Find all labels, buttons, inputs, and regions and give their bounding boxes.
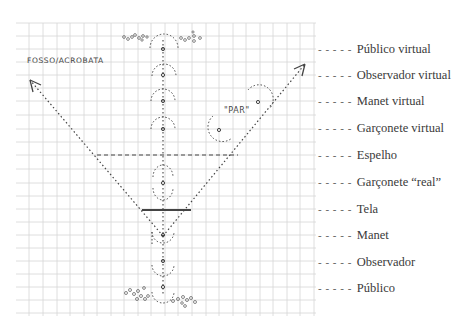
- legend-leader: - - - - -: [318, 176, 352, 188]
- legend-item-publico-virtual: - - - - -Público virtual: [318, 41, 431, 57]
- crowd-top: [123, 31, 202, 42]
- legend-label: Observador: [357, 255, 415, 270]
- legend-item-observador: - - - - -Observador: [318, 254, 415, 270]
- legend-leader: - - - - -: [318, 95, 352, 107]
- legend-leader: - - - - -: [318, 69, 352, 81]
- legend-item-garconete-virtual: - - - - -Garçonete virtual: [318, 120, 444, 136]
- legend-leader: - - - - -: [318, 282, 352, 294]
- legend-item-publico: - - - - -Público: [318, 280, 395, 296]
- legend-item-manet-virtual: - - - - -Manet virtual: [318, 93, 425, 109]
- legend-label: Observador virtual: [357, 68, 451, 83]
- legend-item-garconete-real: - - - - -Garçonete “real”: [318, 174, 441, 190]
- legend-leader: - - - - -: [318, 43, 352, 55]
- legend-item-espelho: - - - - -Espelho: [318, 147, 397, 163]
- sight-line-left: [30, 80, 163, 236]
- legend-leader: - - - - -: [318, 203, 352, 215]
- legend-label: Manet: [357, 228, 389, 243]
- figure-nodes: [150, 34, 273, 303]
- legend-leader: - - - - -: [318, 122, 352, 134]
- legend-leader: - - - - -: [318, 149, 352, 161]
- legend-leader: - - - - -: [318, 256, 352, 268]
- grid-paper: [16, 23, 316, 316]
- legend-label: Garçonete “real”: [357, 175, 441, 190]
- couple-label: "PAR": [224, 106, 250, 115]
- figure-dots: [161, 47, 259, 288]
- pit-acrobat-label: FOSSO/ACROBATA: [27, 56, 104, 65]
- crowd-bottom: [125, 287, 197, 308]
- legend-label: Público: [357, 281, 395, 296]
- legend-label: Público virtual: [357, 42, 431, 57]
- legend-label: Tela: [357, 202, 378, 217]
- legend-item-manet: - - - - -Manet: [318, 227, 389, 243]
- legend-label: Garçonete virtual: [357, 121, 444, 136]
- legend-label: Espelho: [357, 148, 397, 163]
- legend-leader: - - - - -: [318, 229, 352, 241]
- legend-label: Manet virtual: [357, 94, 425, 109]
- legend-item-tela: - - - - -Tela: [318, 201, 378, 217]
- legend-item-observador-virtual: - - - - -Observador virtual: [318, 67, 451, 83]
